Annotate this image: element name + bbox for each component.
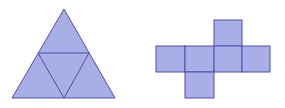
cube-face-4 (214, 46, 242, 72)
nets-svg (0, 0, 285, 108)
cube-face-5 (242, 46, 270, 72)
cube-face-2 (156, 46, 185, 72)
diagram-canvas (0, 0, 285, 108)
cube-net (156, 20, 270, 98)
cube-face-6 (185, 72, 214, 98)
cube-face-3 (185, 46, 214, 72)
cube-face-1 (214, 20, 242, 46)
tetrahedron-net (12, 9, 115, 98)
